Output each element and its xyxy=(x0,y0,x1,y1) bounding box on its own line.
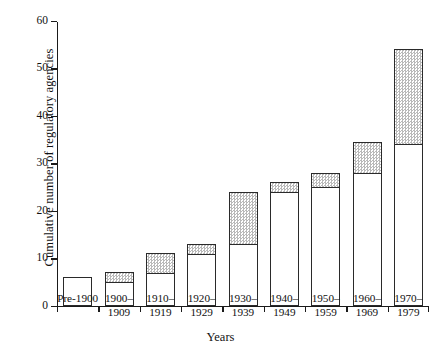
y-tick-label: 20 xyxy=(37,202,49,218)
x-tick-label: 1970– 1979 xyxy=(388,292,429,319)
x-axis-title: Years xyxy=(0,330,441,345)
bar-segment-hatched xyxy=(105,272,134,283)
bar-segment-hatched xyxy=(353,142,382,174)
y-tick: 20 xyxy=(51,211,57,212)
bar-segment-base xyxy=(311,187,340,306)
y-tick-label: 10 xyxy=(37,249,49,265)
bar-segment-hatched xyxy=(146,253,175,273)
y-tick: 40 xyxy=(51,116,57,117)
y-tick-label: 40 xyxy=(37,107,49,123)
y-tick: 50 xyxy=(51,68,57,69)
y-tick-label: 0 xyxy=(42,297,48,313)
x-tick-label: 1930– 1939 xyxy=(222,292,263,319)
y-tick: 10 xyxy=(51,258,57,259)
x-tick-label: Pre-1900 xyxy=(57,292,98,306)
bar xyxy=(229,192,258,306)
bar-segment-base xyxy=(270,192,299,306)
bar-segment-base xyxy=(394,144,423,306)
bar xyxy=(270,182,299,306)
x-tick-label: 1940– 1949 xyxy=(264,292,305,319)
bar-segment-hatched xyxy=(229,192,258,246)
plot-area: 0102030405060 xyxy=(57,22,429,307)
bar xyxy=(394,49,423,306)
bar xyxy=(311,173,340,306)
x-tick-label: 1960– 1969 xyxy=(346,292,387,319)
chart-figure: Cumulative number of regulatory agencies… xyxy=(0,0,441,353)
x-tick-label: 1900– 1909 xyxy=(98,292,139,319)
x-tick-label: 1910– 1919 xyxy=(140,292,181,319)
y-tick-label: 30 xyxy=(37,154,49,170)
x-tick xyxy=(57,307,58,312)
x-tick-label: 1950– 1959 xyxy=(305,292,346,319)
y-tick: 30 xyxy=(51,163,57,164)
y-tick-label: 60 xyxy=(37,12,49,28)
bar-segment-hatched xyxy=(270,182,299,193)
y-axis-line xyxy=(57,22,58,307)
bar xyxy=(353,142,382,306)
bar-segment-base xyxy=(353,173,382,306)
bar-segment-hatched xyxy=(311,173,340,189)
bar-segment-hatched xyxy=(187,244,216,255)
y-tick: 60 xyxy=(51,21,57,22)
bar-segment-hatched xyxy=(394,49,423,145)
x-tick-label: 1920– 1929 xyxy=(181,292,222,319)
y-tick-label: 50 xyxy=(37,59,49,75)
